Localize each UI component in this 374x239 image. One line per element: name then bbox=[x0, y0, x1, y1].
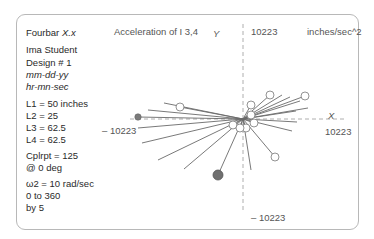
acceleration-vector bbox=[164, 103, 243, 119]
vector-endpoint-marker bbox=[135, 114, 141, 120]
vector-endpoint-marker bbox=[236, 124, 244, 132]
vector-endpoint-marker bbox=[301, 92, 309, 100]
acceleration-vector bbox=[142, 119, 243, 143]
vector-endpoint-marker bbox=[176, 103, 184, 111]
vector-endpoint-marker bbox=[247, 111, 255, 119]
vector-endpoint-marker bbox=[250, 119, 258, 127]
vector-endpoint-marker bbox=[213, 170, 223, 180]
acceleration-plot bbox=[0, 0, 374, 239]
vector-endpoint-marker bbox=[271, 153, 279, 161]
vector-endpoint-marker bbox=[266, 91, 274, 99]
vector-endpoint-marker bbox=[247, 101, 255, 109]
